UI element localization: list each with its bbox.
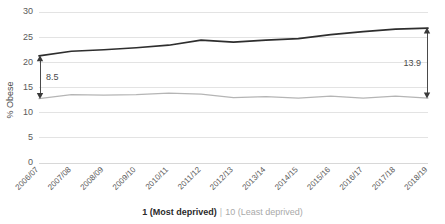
y-axis-tick-labels: 051015202530 xyxy=(23,6,33,167)
chart-legend: 1 (Most deprived)|10 (Least deprived) xyxy=(0,207,445,218)
x-tick-label-2011-12: 2011/12 xyxy=(176,165,203,192)
y-tick-label-20: 20 xyxy=(23,57,33,67)
legend-separator: | xyxy=(220,207,222,217)
gridlines-group xyxy=(39,12,428,163)
legend-item-most-deprived[interactable]: 1 (Most deprived) xyxy=(142,207,217,217)
x-tick-label-2013-14: 2013/14 xyxy=(241,165,268,192)
series-line-most-deprived xyxy=(39,28,428,56)
y-tick-label-30: 30 xyxy=(23,6,33,16)
x-tick-label-2010-11: 2010/11 xyxy=(144,165,171,192)
y-axis-title-group: % Obese xyxy=(5,81,15,118)
obesity-deprivation-line-chart: 051015202530 % Obese 8.513.9 2006/072007… xyxy=(0,0,445,224)
annotations-group: 8.513.9 xyxy=(37,28,430,99)
x-tick-label-2007-08: 2007/08 xyxy=(46,165,73,192)
annotation-label-13.9: 13.9 xyxy=(403,58,421,68)
y-axis-title: % Obese xyxy=(5,81,15,118)
x-tick-label-2006-07: 2006/07 xyxy=(14,165,41,192)
chart-canvas: 051015202530 % Obese 8.513.9 2006/072007… xyxy=(0,0,445,224)
y-tick-label-15: 15 xyxy=(23,82,33,92)
x-tick-label-2015-16: 2015/16 xyxy=(305,165,332,192)
series-group xyxy=(39,28,428,98)
y-tick-label-5: 5 xyxy=(28,132,33,142)
x-tick-label-2008-09: 2008/09 xyxy=(78,165,105,192)
x-tick-label-2018-19: 2018/19 xyxy=(403,165,430,192)
annotation-label-8.5: 8.5 xyxy=(46,72,59,82)
x-tick-label-2012-13: 2012/13 xyxy=(208,165,235,192)
y-tick-label-10: 10 xyxy=(23,107,33,117)
x-tick-label-2014-15: 2014/15 xyxy=(273,165,300,192)
x-tick-label-2016-17: 2016/17 xyxy=(338,165,365,192)
legend-item-least-deprived[interactable]: 10 (Least deprived) xyxy=(225,207,303,217)
series-line-least-deprived xyxy=(39,93,428,99)
x-tick-label-2009-10: 2009/10 xyxy=(111,165,138,192)
x-axis-tick-labels: 2006/072007/082008/092009/102010/112011/… xyxy=(14,165,430,192)
y-tick-label-25: 25 xyxy=(23,32,33,42)
x-tick-label-2017-18: 2017/18 xyxy=(370,165,397,192)
